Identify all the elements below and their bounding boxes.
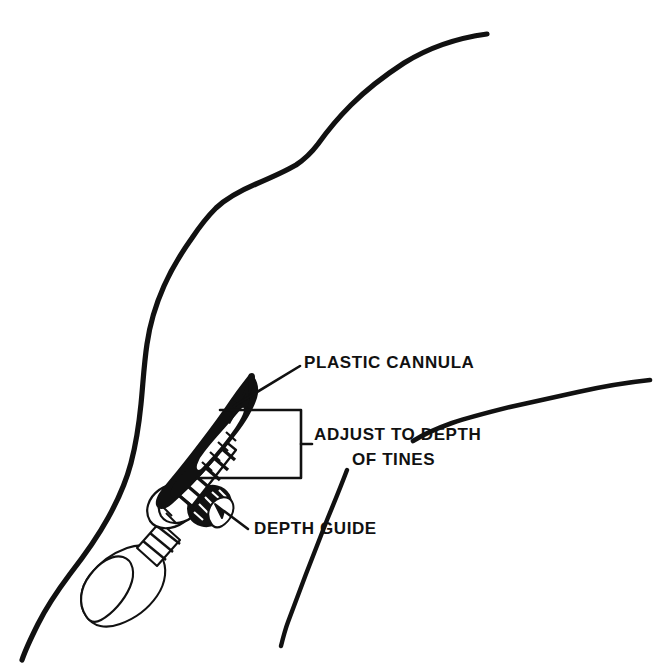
label-depth-guide: DEPTH GUIDE	[254, 518, 377, 540]
label-adjust-to-depth: ADJUST TO DEPTH	[314, 424, 481, 446]
label-of-tines: OF TINES	[352, 449, 435, 471]
line-art-illustration	[0, 0, 664, 664]
label-plastic-cannula: PLASTIC CANNULA	[304, 352, 475, 374]
figure-canvas: PLASTIC CANNULA ADJUST TO DEPTH OF TINES…	[0, 0, 664, 664]
